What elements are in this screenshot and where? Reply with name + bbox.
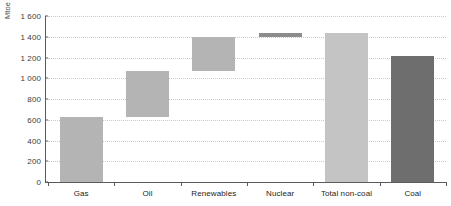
gridline	[48, 161, 446, 162]
gridline	[48, 99, 446, 100]
x-axis-tick-mark	[181, 182, 182, 186]
x-axis-tick-label: Coal	[404, 189, 421, 198]
x-axis-tick-mark	[380, 182, 381, 186]
y-axis-tick-label: 400	[27, 136, 41, 145]
y-axis-tick-label: 1 000	[20, 74, 41, 83]
gridline	[48, 78, 446, 79]
y-axis-tick-label: 1 600	[20, 12, 41, 21]
bar-total-non-coal	[325, 33, 368, 182]
y-axis-tick-label: 1 400	[20, 32, 41, 41]
y-axis-tick-label: 200	[27, 157, 41, 166]
y-axis-tick-label: 800	[27, 95, 41, 104]
y-axis-title-text: Mtoe	[4, 2, 13, 19]
bar-oil	[126, 71, 169, 117]
bar-coal	[391, 56, 434, 182]
gridline	[48, 16, 446, 17]
y-axis-line	[45, 16, 46, 183]
y-axis-tick-label: 600	[27, 115, 41, 124]
x-axis-tick-mark	[247, 182, 248, 186]
bar-renewables	[192, 37, 235, 71]
gridline	[48, 141, 446, 142]
x-axis-tick-label: Total non-coal	[321, 189, 372, 198]
y-axis-tick-labels: 02004006008001 0001 2001 4001 600	[14, 16, 45, 182]
x-axis-tick-mark	[446, 182, 447, 186]
x-axis-tick-label: Renewables	[191, 189, 236, 198]
bar-chart: Mtoe 02004006008001 0001 2001 4001 600 G…	[0, 0, 451, 206]
x-axis-tick-mark	[114, 182, 115, 186]
x-axis-tick-label: Nuclear	[266, 189, 294, 198]
gridline	[48, 37, 446, 38]
x-axis-tick-mark	[48, 182, 49, 186]
bar-nuclear	[259, 33, 302, 38]
bar-gas	[60, 117, 103, 182]
y-axis-tick-label: 0	[36, 178, 41, 187]
gridline	[48, 120, 446, 121]
x-axis-tick-mark	[313, 182, 314, 186]
x-axis-tick-label: Gas	[74, 189, 89, 198]
gridline	[48, 58, 446, 59]
plot-area	[48, 16, 446, 182]
y-axis-tick-label: 1 200	[20, 53, 41, 62]
x-axis-tick-labels: GasOilRenewablesNuclearTotal non-coalCoa…	[48, 182, 446, 206]
x-axis-tick-label: Oil	[142, 189, 152, 198]
